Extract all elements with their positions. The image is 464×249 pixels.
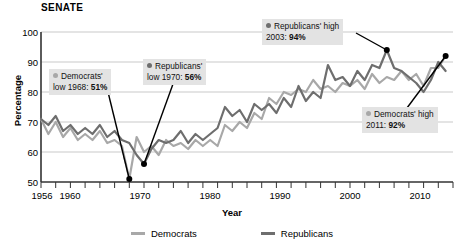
callout-democrats-low-value: 51% [91,82,108,92]
legend-swatch-republicans [261,232,275,236]
callout-republicans-high: Republicans' high 2003: 94% [262,19,343,45]
democrat-marker-icon-2 [366,111,371,116]
callout-leader-lines [108,33,446,179]
x-axis-ticks [41,182,453,188]
callout-republicans-high-line1: Republicans' high [274,21,339,31]
legend-item-democrats[interactable]: Democrats [131,228,197,239]
callout-democrats-low-line2-prefix: low 1968: [53,82,91,92]
callout-republicans-high-value: 94% [289,32,306,42]
callout-democrats-high-line2-prefix: 2011: [366,120,388,130]
legend-label-democrats: Democrats [151,228,197,239]
democrat-marker-icon [53,73,58,78]
callout-republicans-high-line2-prefix: 2003: [266,32,289,42]
chart-legend: Democrats Republicans [0,228,464,239]
legend-swatch-democrats [131,232,145,236]
legend-item-republicans[interactable]: Republicans [261,228,333,239]
senate-party-unity-chart: SENATE Percentage Year 100 90 80 70 60 5… [0,0,464,249]
republican-marker-icon [147,63,152,68]
callout-democrats-low: Democrats' low 1968: 51% [49,69,111,95]
callout-republicans-low: Republicans' low 1970: 56% [143,59,206,85]
legend-label-republicans: Republicans [281,228,333,239]
callout-democrats-high-value: 92% [388,120,405,130]
callout-democrats-high-line1: Democrats' high [374,109,434,119]
callout-republicans-low-line2-prefix: low 1970: [147,72,185,82]
republican-marker-icon-2 [266,23,271,28]
callout-democrats-low-line1: Democrats' [61,71,103,81]
callout-democrats-high: Democrats' high 2011: 92% [362,107,438,133]
callout-republicans-low-value: 56% [185,72,202,82]
callout-republicans-low-line1: Republicans' [155,61,202,71]
